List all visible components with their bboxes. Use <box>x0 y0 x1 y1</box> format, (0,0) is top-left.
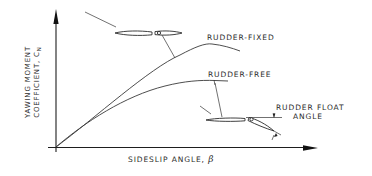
y-axis-label-line1: YAWING MOMENT <box>24 46 33 118</box>
float-angle-arrow-top-icon <box>273 114 276 118</box>
rudder-fixed-leader <box>162 35 175 58</box>
y-axis-arrow-icon <box>53 9 58 24</box>
rudder-free-label: RUDDER-FREE <box>208 70 272 79</box>
y-axis-label: YAWING MOMENT COEFFICIENT, CN <box>21 44 47 120</box>
rudder-float-angle-label: RUDDER FLOAT ANGLE <box>276 103 340 121</box>
rudder-fixed-pointer <box>85 12 116 27</box>
rudder-float-angle-line1: RUDDER FLOAT <box>276 103 340 112</box>
rudder-fixed-curve <box>56 44 240 147</box>
y-axis-label-line2: COEFFICIENT, CN <box>33 46 44 118</box>
float-angle-arrow-bottom-icon <box>274 133 278 137</box>
rudder-fixed-airfoil-icon <box>115 31 182 35</box>
rudder-free-curve <box>56 80 228 147</box>
rudder-free-leader <box>215 83 222 117</box>
x-axis-arrow-icon <box>303 145 318 151</box>
rudder-free-pointer <box>200 106 211 114</box>
x-axis-label: SIDESLIP ANGLE, β <box>128 155 213 164</box>
rudder-float-angle-line2: ANGLE <box>276 112 340 121</box>
beta-symbol: β <box>208 154 213 164</box>
rudder-fixed-label: RUDDER-FIXED <box>207 33 275 42</box>
rudder-free-airfoil-icon <box>206 118 274 132</box>
diagram-canvas <box>0 0 372 176</box>
